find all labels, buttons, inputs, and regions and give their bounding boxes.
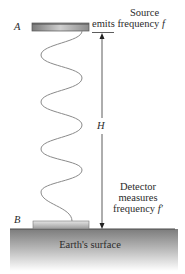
detector-label-line2: measures (108, 192, 168, 203)
source-frequency-word: frequency (115, 18, 162, 29)
source-label-line1: Source (92, 7, 185, 18)
height-label: H (97, 120, 105, 131)
detector-frequency-word: frequency (113, 203, 158, 214)
detector-label-line1: Detector (108, 181, 168, 192)
detector-label-line3: frequency f′ (108, 203, 168, 214)
source-plate (32, 23, 89, 31)
point-b-label: B (14, 214, 20, 225)
detector-frequency-symbol: f′ (158, 203, 163, 214)
source-label-line2: emits frequency f (92, 18, 185, 29)
point-a-label: A (14, 21, 20, 32)
diagram-canvas (0, 0, 185, 274)
detector-plate (33, 221, 89, 229)
source-frequency-symbol: f (162, 18, 165, 29)
earth-surface-label: Earth's surface (40, 239, 140, 250)
source-emits-word: emits (92, 18, 115, 29)
light-wave (41, 31, 82, 221)
detector-label: Detector measures frequency f′ (108, 181, 168, 214)
earth-surface (10, 229, 178, 271)
source-label: Source emits frequency f (92, 7, 185, 29)
